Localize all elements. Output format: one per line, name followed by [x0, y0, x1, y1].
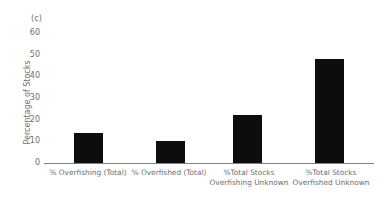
x-label-4: %Total Stocks Overfished Unknown: [276, 168, 386, 188]
bar-overfished-total[interactable]: [156, 141, 185, 163]
bar-chart-figure: (c) Percentage of Stocks 60 50 40 30 20 …: [0, 0, 388, 207]
bar-slot-1: [48, 33, 129, 163]
bar-total-stocks-overfished-unknown[interactable]: [315, 59, 344, 163]
y-tick-20: 20: [14, 116, 40, 124]
bar-slot-2: [129, 33, 210, 163]
x-label-4-line-2: Overfished Unknown: [276, 178, 386, 188]
y-tick-40: 40: [14, 72, 40, 80]
x-axis-line: [44, 163, 374, 164]
bar-overfishing-total[interactable]: [74, 133, 103, 163]
x-label-4-line-1: %Total Stocks: [276, 168, 386, 178]
bar-total-stocks-overfishing-unknown[interactable]: [233, 115, 262, 163]
bar-wrap-3: [210, 33, 291, 163]
y-tick-50: 50: [14, 51, 40, 59]
y-tick-30: 30: [14, 94, 40, 102]
bar-wrap-4: [291, 33, 372, 163]
y-tick-60: 60: [14, 29, 40, 37]
bar-wrap-1: [48, 33, 129, 163]
plot-area: [48, 33, 372, 163]
bar-wrap-2: [129, 33, 210, 163]
bar-slot-4: [291, 33, 372, 163]
y-tick-10: 10: [14, 137, 40, 145]
bar-slot-3: [210, 33, 291, 163]
y-tick-0: 0: [14, 159, 40, 167]
